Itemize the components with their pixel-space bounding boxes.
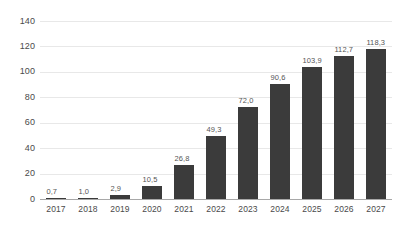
x-axis-tick-label: 2024: [264, 205, 296, 214]
x-axis-tick-label: 2018: [72, 205, 104, 214]
x-axis-tick-label: 2020: [136, 205, 168, 214]
x-axis-tick-label: 2027: [360, 205, 392, 214]
bar-chart: 020406080100120140 0,71,02,910,526,849,3…: [0, 0, 407, 238]
x-axis-tick-label: 2026: [328, 205, 360, 214]
x-axis-tick-label: 2025: [296, 205, 328, 214]
x-axis-tick-label: 2019: [104, 205, 136, 214]
x-axis-tick-label: 2023: [232, 205, 264, 214]
x-axis-tick-label: 2022: [200, 205, 232, 214]
x-axis-tick-label: 2017: [40, 205, 72, 214]
x-axis-tick-label: 2021: [168, 205, 200, 214]
x-axis-tick-labels: 2017201820192020202120222023202420252026…: [0, 0, 407, 238]
